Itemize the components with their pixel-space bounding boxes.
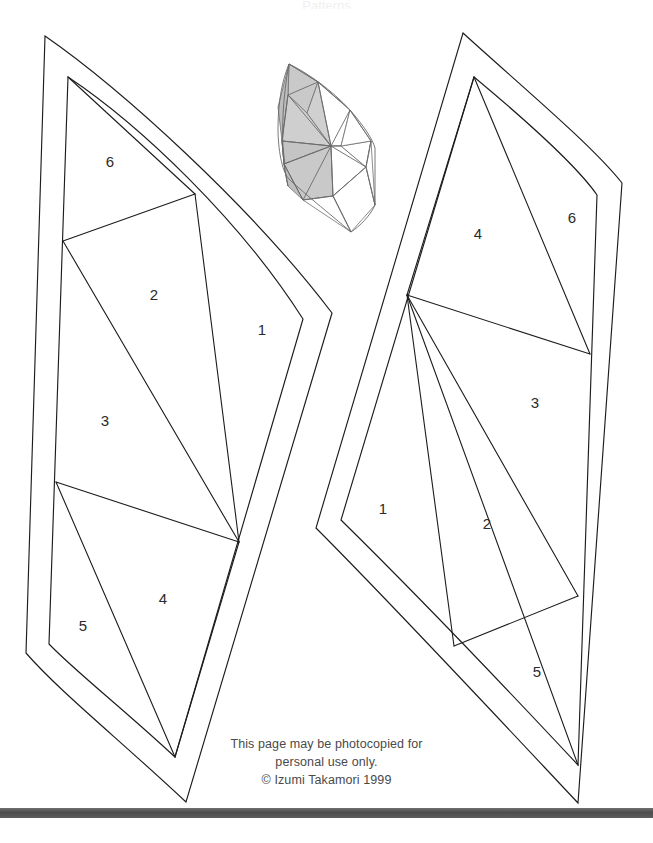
pattern-drawing: 1 2 3 4 5 6 1 2 3 4 5 6 xyxy=(0,0,653,843)
reference-thumbnail[interactable] xyxy=(278,64,375,232)
pattern-page: Patterns 1 2 3 4 5 6 xyxy=(0,0,653,843)
right-piece-label-6: 6 xyxy=(568,209,576,226)
right-piece-label-2: 2 xyxy=(483,515,491,532)
left-piece-label-5: 5 xyxy=(79,617,87,634)
left-piece-label-1: 1 xyxy=(258,321,266,338)
page-edge-bar xyxy=(0,808,653,818)
right-piece-label-4: 4 xyxy=(474,225,482,242)
right-piece-label-5: 5 xyxy=(533,663,541,680)
left-piece-label-3: 3 xyxy=(101,412,109,429)
right-piece-label-3: 3 xyxy=(531,394,539,411)
left-piece-label-6: 6 xyxy=(106,153,114,170)
left-piece-label-2: 2 xyxy=(150,286,158,303)
left-inner-outline xyxy=(49,77,303,757)
left-piece-label-4: 4 xyxy=(159,590,167,607)
right-piece-label-1: 1 xyxy=(379,500,387,517)
